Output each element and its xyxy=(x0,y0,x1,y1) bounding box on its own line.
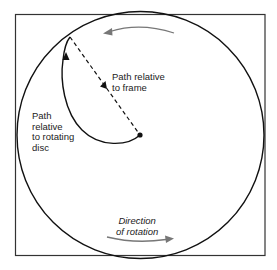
label-direction-of-rotation: Direction of rotation xyxy=(116,216,158,237)
label-path-relative-to-frame: Path relative to frame xyxy=(112,72,165,93)
label-line: disc xyxy=(32,143,74,154)
top-rotation-arrow-icon xyxy=(103,27,174,35)
label-path-relative-to-disc: Path relative to rotating disc xyxy=(32,111,74,153)
center-point-dot-icon xyxy=(137,132,142,137)
label-line: Direction xyxy=(116,216,158,227)
label-line: Path relative xyxy=(112,72,165,83)
label-line: of rotation xyxy=(116,227,158,238)
label-line: Path xyxy=(32,111,74,122)
label-line: to rotating xyxy=(32,132,74,143)
label-line: to frame xyxy=(112,83,165,94)
frame-path-arrowhead-icon xyxy=(100,81,107,89)
